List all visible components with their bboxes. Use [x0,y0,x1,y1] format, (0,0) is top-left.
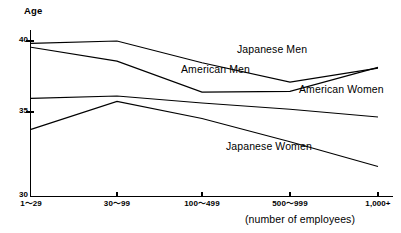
series-line-japanese-women [31,101,378,166]
series-line-american-men [31,47,378,92]
series-line-japanese-men [31,41,378,82]
series-group [31,41,378,167]
plot-area [0,0,401,233]
line-chart: Age 40 35 30 1～29 30～99 100～499 500～999 … [0,0,401,233]
series-line-american-women [31,96,378,117]
